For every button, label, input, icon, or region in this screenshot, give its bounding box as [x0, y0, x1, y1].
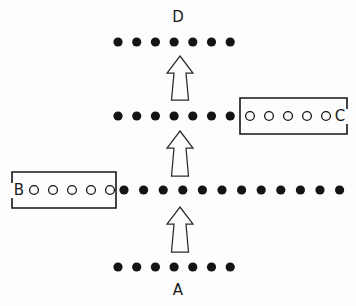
- filled-dot-b-3: [159, 185, 168, 194]
- filled-dot-b-7: [237, 185, 246, 194]
- filled-dot-b-12: [335, 185, 344, 194]
- filled-dot-d-1: [113, 37, 122, 46]
- filled-dot-d-3: [151, 37, 160, 46]
- filled-dot-c-6: [207, 111, 216, 120]
- open-circle-c-1: [246, 112, 255, 121]
- open-circle-b-5: [106, 186, 115, 195]
- filled-dot-b-4: [178, 185, 187, 194]
- diagram-canvas: DCBA: [0, 0, 356, 306]
- filled-dot-b-6: [217, 185, 226, 194]
- filled-dot-c-4: [170, 111, 179, 120]
- open-circle-c-3: [284, 112, 293, 121]
- row-label-b: B: [14, 181, 24, 199]
- open-circle-c-4: [303, 112, 312, 121]
- filled-dot-a-3: [151, 262, 160, 271]
- open-circle-b-4: [87, 186, 96, 195]
- open-circle-b-1: [30, 186, 39, 195]
- filled-dot-a-1: [113, 262, 122, 271]
- filled-dot-b-5: [198, 185, 207, 194]
- filled-dot-b-9: [276, 185, 285, 194]
- filled-dot-c-5: [188, 111, 197, 120]
- filled-dot-d-6: [207, 37, 216, 46]
- open-circle-b-2: [49, 186, 58, 195]
- row-label-d: D: [172, 8, 184, 26]
- filled-dot-d-4: [170, 37, 179, 46]
- filled-dot-d-5: [188, 37, 197, 46]
- filled-dot-c-3: [151, 111, 160, 120]
- filled-dot-b-8: [257, 185, 266, 194]
- filled-dot-c-2: [132, 111, 141, 120]
- filled-dot-a-2: [132, 262, 141, 271]
- filled-dot-b-1: [119, 185, 128, 194]
- open-circle-b-3: [68, 186, 77, 195]
- filled-dot-b-11: [315, 185, 324, 194]
- row-label-a: A: [173, 281, 184, 299]
- diagram-svg: DCBA: [0, 0, 356, 306]
- filled-dot-c-7: [226, 111, 235, 120]
- open-circle-c-2: [265, 112, 274, 121]
- filled-dot-c-1: [113, 111, 122, 120]
- filled-dot-b-2: [139, 185, 148, 194]
- filled-dot-a-6: [207, 262, 216, 271]
- row-label-c: C: [335, 107, 345, 125]
- filled-dot-b-10: [296, 185, 305, 194]
- filled-dot-a-4: [170, 262, 179, 271]
- filled-dot-a-7: [226, 262, 235, 271]
- filled-dot-a-5: [188, 262, 197, 271]
- open-circle-c-5: [322, 112, 331, 121]
- filled-dot-d-2: [132, 37, 141, 46]
- filled-dot-d-7: [226, 37, 235, 46]
